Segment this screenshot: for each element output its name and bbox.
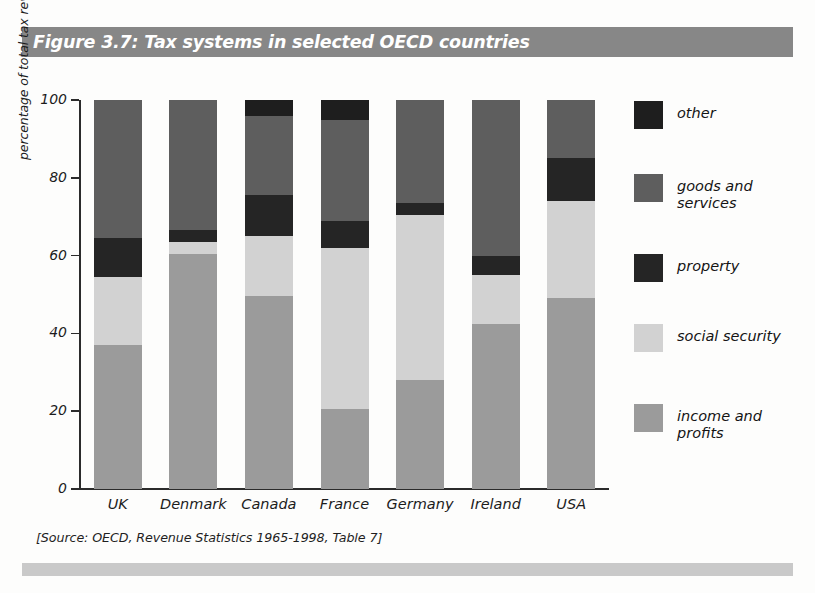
bar-segment[interactable] xyxy=(321,100,369,119)
bar-segment[interactable] xyxy=(169,242,217,254)
bar-segment[interactable] xyxy=(321,221,369,248)
stacked-bar[interactable] xyxy=(472,100,520,489)
y-axis-tick-label-wrap: 20 xyxy=(20,411,67,412)
x-axis-label-france: France xyxy=(307,496,383,512)
stacked-bar[interactable] xyxy=(396,100,444,489)
y-axis-tick-label-wrap: 0 xyxy=(20,489,67,490)
x-axis-label-canada: Canada xyxy=(231,496,307,512)
legend-item-property[interactable]: property xyxy=(634,254,739,282)
y-axis-label: percentage of total tax revenue xyxy=(16,0,31,160)
stacked-bar[interactable] xyxy=(547,100,595,489)
bar-segment[interactable] xyxy=(321,409,369,489)
bar-segment[interactable] xyxy=(245,195,293,236)
footer-rule xyxy=(22,563,793,576)
bar-segment[interactable] xyxy=(245,100,293,116)
bar-segment[interactable] xyxy=(169,254,217,489)
legend-label-goods-and-services: goods and services xyxy=(677,174,753,212)
y-axis-tick-label: 60 xyxy=(25,247,67,263)
y-axis-tick xyxy=(71,99,79,101)
bar-segment[interactable] xyxy=(472,324,520,489)
bar-segment[interactable] xyxy=(396,380,444,489)
bar-segment[interactable] xyxy=(169,100,217,230)
x-axis-label-usa: USA xyxy=(533,496,609,512)
bar-segment[interactable] xyxy=(396,203,444,215)
y-axis-tick xyxy=(71,177,79,179)
y-axis-tick xyxy=(71,488,79,490)
x-axis-label-denmark: Denmark xyxy=(156,496,232,512)
stacked-bar[interactable] xyxy=(169,100,217,489)
y-axis-tick xyxy=(71,410,79,412)
y-axis-tick-label: 100 xyxy=(25,91,67,107)
bar-column[interactable] xyxy=(547,100,595,489)
y-axis-tick-label-wrap: 80 xyxy=(20,178,67,179)
bar-segment[interactable] xyxy=(94,345,142,489)
y-axis-tick-label: 0 xyxy=(25,480,67,496)
bar-segment[interactable] xyxy=(169,230,217,242)
stacked-bar[interactable] xyxy=(94,100,142,489)
y-axis-tick-label: 40 xyxy=(25,324,67,340)
y-axis-tick xyxy=(71,255,79,257)
bar-segment[interactable] xyxy=(472,256,520,275)
legend-label-other: other xyxy=(677,101,716,122)
bar-segment[interactable] xyxy=(94,238,142,277)
bar-segment[interactable] xyxy=(472,100,520,256)
stacked-bar[interactable] xyxy=(245,100,293,489)
legend-swatch-property xyxy=(634,254,663,282)
legend-swatch-income-and-profits xyxy=(634,404,663,432)
bar-column[interactable] xyxy=(169,100,217,489)
bar-column[interactable] xyxy=(245,100,293,489)
bar-segment[interactable] xyxy=(472,275,520,324)
bar-segment[interactable] xyxy=(547,100,595,158)
bar-segment[interactable] xyxy=(245,116,293,196)
bar-segment[interactable] xyxy=(245,236,293,296)
y-axis-tick-label-wrap: 100 xyxy=(20,100,67,101)
legend-swatch-other xyxy=(634,101,663,129)
x-axis-label-germany: Germany xyxy=(382,496,458,512)
figure-root: Figure 3.7: Tax systems in selected OECD… xyxy=(0,0,815,593)
bar-segment[interactable] xyxy=(396,215,444,380)
y-axis-tick xyxy=(71,333,79,335)
x-axis-label-ireland: Ireland xyxy=(458,496,534,512)
bar-column[interactable] xyxy=(396,100,444,489)
bar-segment[interactable] xyxy=(547,201,595,298)
bar-segment[interactable] xyxy=(321,248,369,409)
y-axis-tick-label: 80 xyxy=(25,169,67,185)
source-note: [Source: OECD, Revenue Statistics 1965-1… xyxy=(36,530,382,545)
y-axis-line xyxy=(79,100,81,489)
legend-swatch-goods-and-services xyxy=(634,174,663,202)
bar-segment[interactable] xyxy=(396,100,444,203)
bar-segment[interactable] xyxy=(547,158,595,201)
legend-item-income-and-profits[interactable]: income and profits xyxy=(634,404,762,442)
bar-segment[interactable] xyxy=(94,277,142,345)
bar-segment[interactable] xyxy=(547,298,595,489)
bar-column[interactable] xyxy=(94,100,142,489)
legend-label-income-and-profits: income and profits xyxy=(677,404,762,442)
bar-segment[interactable] xyxy=(321,120,369,221)
bar-segment[interactable] xyxy=(245,296,293,489)
y-axis-tick-label-wrap: 60 xyxy=(20,256,67,257)
legend-label-social-security: social security xyxy=(677,324,781,345)
stacked-bar[interactable] xyxy=(321,100,369,489)
x-axis-label-uk: UK xyxy=(80,496,156,512)
chart-plot-area: percentage of total tax revenue 02040608… xyxy=(0,0,815,593)
legend-item-social-security[interactable]: social security xyxy=(634,324,781,352)
legend-item-goods-and-services[interactable]: goods and services xyxy=(634,174,753,212)
bar-segment[interactable] xyxy=(94,100,142,238)
y-axis-tick-label: 20 xyxy=(25,402,67,418)
bar-column[interactable] xyxy=(472,100,520,489)
y-axis-tick-label-wrap: 40 xyxy=(20,333,67,334)
bar-column[interactable] xyxy=(321,100,369,489)
legend-swatch-social-security xyxy=(634,324,663,352)
legend-label-property: property xyxy=(677,254,739,275)
legend-item-other[interactable]: other xyxy=(634,101,716,129)
